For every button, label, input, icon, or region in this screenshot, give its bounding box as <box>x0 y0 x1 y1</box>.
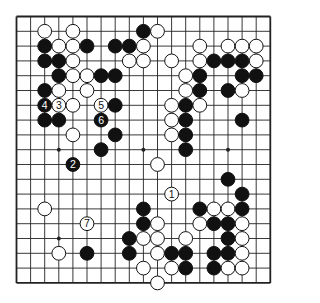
black-stone: 4 <box>38 98 52 112</box>
black-stone <box>179 113 193 127</box>
white-stone <box>165 54 179 68</box>
white-stone <box>122 54 136 68</box>
move-number-label: 6 <box>98 114 104 126</box>
move-number-label: 5 <box>98 99 104 111</box>
black-stone <box>179 98 193 112</box>
stones-layer: 4356217 <box>38 24 263 289</box>
black-stone <box>52 113 66 127</box>
black-stone <box>137 202 151 216</box>
white-stone <box>80 84 94 98</box>
black-stone <box>221 217 235 231</box>
black-stone <box>108 98 122 112</box>
move-number-label: 4 <box>42 99 48 111</box>
white-stone <box>235 232 249 246</box>
black-stone <box>235 113 249 127</box>
black-stone <box>235 187 249 201</box>
black-stone <box>221 232 235 246</box>
white-stone <box>165 98 179 112</box>
black-stone <box>38 84 52 98</box>
white-stone <box>151 276 165 290</box>
white-stone <box>249 39 263 53</box>
white-stone <box>52 84 66 98</box>
black-stone <box>193 202 207 216</box>
white-stone <box>165 261 179 275</box>
white-stone <box>137 54 151 68</box>
white-stone <box>165 113 179 127</box>
white-stone <box>66 98 80 112</box>
star-point <box>57 148 61 152</box>
white-stone <box>38 202 52 216</box>
white-stone <box>221 202 235 216</box>
white-stone <box>151 217 165 231</box>
white-stone <box>151 246 165 260</box>
white-stone <box>235 217 249 231</box>
white-stone <box>193 217 207 231</box>
black-stone <box>108 39 122 53</box>
white-stone <box>235 261 249 275</box>
black-stone: 6 <box>94 113 108 127</box>
white-stone <box>66 69 80 83</box>
black-stone <box>122 39 136 53</box>
black-stone <box>207 54 221 68</box>
black-stone <box>207 246 221 260</box>
black-stone <box>179 261 193 275</box>
white-stone <box>151 158 165 172</box>
black-stone <box>207 261 221 275</box>
black-stone <box>235 54 249 68</box>
black-stone <box>207 217 221 231</box>
black-stone <box>221 84 235 98</box>
move-number-label: 3 <box>56 99 62 111</box>
black-stone <box>108 69 122 83</box>
white-stone <box>66 24 80 38</box>
white-stone <box>80 69 94 83</box>
white-stone <box>151 232 165 246</box>
white-stone <box>193 39 207 53</box>
black-stone <box>249 69 263 83</box>
white-stone <box>221 39 235 53</box>
white-stone <box>151 24 165 38</box>
black-stone <box>80 246 94 260</box>
black-stone <box>122 232 136 246</box>
white-stone: 7 <box>80 217 94 231</box>
black-stone <box>193 84 207 98</box>
black-stone <box>165 246 179 260</box>
white-stone <box>137 232 151 246</box>
star-point <box>57 237 61 241</box>
white-stone: 3 <box>52 98 66 112</box>
white-stone <box>66 54 80 68</box>
black-stone <box>38 113 52 127</box>
white-stone <box>221 261 235 275</box>
black-stone <box>221 246 235 260</box>
white-stone <box>235 246 249 260</box>
black-stone <box>235 202 249 216</box>
black-stone <box>179 128 193 142</box>
move-number-label: 2 <box>70 158 76 170</box>
white-stone <box>165 128 179 142</box>
white-stone <box>137 39 151 53</box>
black-stone <box>193 69 207 83</box>
white-stone <box>249 54 263 68</box>
black-stone <box>137 24 151 38</box>
white-stone <box>179 232 193 246</box>
white-stone <box>207 202 221 216</box>
white-stone: 5 <box>94 98 108 112</box>
black-stone <box>94 69 108 83</box>
black-stone <box>52 54 66 68</box>
black-stone <box>38 39 52 53</box>
white-stone <box>52 246 66 260</box>
white-stone <box>137 261 151 275</box>
black-stone <box>52 69 66 83</box>
white-stone <box>38 24 52 38</box>
black-stone <box>122 246 136 260</box>
black-stone <box>94 143 108 157</box>
move-number-label: 1 <box>169 188 175 200</box>
star-point <box>226 148 230 152</box>
white-stone <box>52 39 66 53</box>
white-stone <box>66 39 80 53</box>
black-stone <box>235 69 249 83</box>
white-stone <box>193 54 207 68</box>
white-stone <box>235 39 249 53</box>
black-stone <box>80 39 94 53</box>
black-stone <box>221 54 235 68</box>
black-stone <box>221 172 235 186</box>
